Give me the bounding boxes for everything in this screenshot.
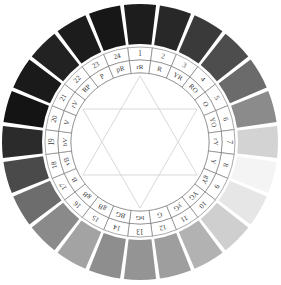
- color-wheel-figure: 123456789101112131415161718192021222324 …: [0, 0, 281, 285]
- color-wheel-svg: 123456789101112131415161718192021222324 …: [0, 0, 281, 285]
- swatch-1: [124, 4, 156, 45]
- swatch-7: [237, 126, 278, 158]
- hue-label-rR-1: rR: [137, 63, 144, 71]
- center-disc: [71, 73, 209, 211]
- hue-label-bV-19: bV: [61, 138, 69, 147]
- number-label-19: 19: [48, 138, 56, 146]
- number-label-1: 1: [138, 50, 142, 58]
- number-label-7: 7: [225, 140, 233, 144]
- number-label-13: 13: [136, 227, 144, 235]
- hue-label-bG-13: bG: [136, 214, 145, 222]
- swatch-19: [2, 126, 43, 158]
- hue-label-rY-7: rY: [212, 138, 220, 145]
- center-white-disc: [71, 73, 209, 211]
- swatch-13: [124, 239, 156, 280]
